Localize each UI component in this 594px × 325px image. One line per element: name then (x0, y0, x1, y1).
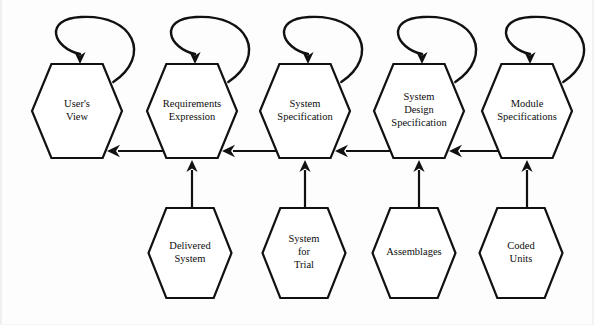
hexagon-node-requirements-expression[interactable]: RequirementsExpression (147, 64, 237, 158)
hexagon-label-assemblages: Assemblages (386, 246, 441, 257)
hexagon-node-coded-units[interactable]: CodedUnits (480, 208, 563, 298)
hexagon-node-system-for-trial[interactable]: SystemforTrial (263, 208, 346, 298)
hexagon-label-delivered-system: Delivered (169, 240, 211, 251)
hexagon-label-system-design-specification: Design (404, 104, 434, 115)
top-row-group: User'sViewRequirementsExpressionSystemSp… (32, 64, 572, 158)
hexagon-node-assemblages[interactable]: Assemblages (373, 208, 456, 298)
process-hexagon-diagram: User'sViewRequirementsExpressionSystemSp… (0, 0, 594, 325)
hexagon-label-system-specification: System (290, 98, 321, 109)
hexagon-node-module-specifications[interactable]: ModuleSpecifications (482, 64, 572, 158)
hexagon-label-users-view: User's (64, 98, 90, 109)
hexagon-label-system-design-specification: Specification (391, 117, 447, 128)
hexagon-label-system-for-trial: for (298, 246, 311, 257)
hexagon-label-requirements-expression: Expression (169, 111, 216, 122)
hexagon-label-delivered-system: System (175, 253, 206, 264)
hexagon-node-system-specification[interactable]: SystemSpecification (260, 64, 350, 158)
hexagon-label-module-specifications: Specifications (497, 111, 556, 122)
hexagon-label-requirements-expression: Requirements (163, 98, 221, 109)
hexagon-label-system-for-trial: Trial (294, 259, 314, 270)
hexagon-label-system-specification: Specification (277, 111, 333, 122)
hexagon-node-system-design-specification[interactable]: SystemDesignSpecification (374, 64, 464, 158)
hexagon-label-coded-units: Coded (507, 240, 535, 251)
diagram-canvas: User'sViewRequirementsExpressionSystemSp… (0, 0, 594, 325)
hexagon-label-module-specifications: Module (511, 98, 544, 109)
hexagon-label-system-for-trial: System (289, 233, 320, 244)
hexagon-label-coded-units: Units (510, 253, 533, 264)
bottom-row-group: DeliveredSystemSystemforTrialAssemblages… (149, 208, 563, 298)
hexagon-node-delivered-system[interactable]: DeliveredSystem (149, 208, 232, 298)
hexagon-node-users-view[interactable]: User'sView (32, 64, 122, 158)
hexagon-label-system-design-specification: System (404, 91, 435, 102)
hexagon-label-users-view: View (66, 111, 89, 122)
